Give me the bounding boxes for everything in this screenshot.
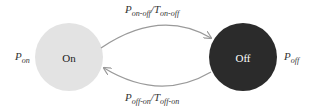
- p-off-sub: off: [291, 56, 299, 65]
- state-on-label: On: [62, 52, 75, 64]
- transition-off-on-arrow: [104, 68, 211, 86]
- p-on-main: P: [15, 50, 22, 62]
- p-off-label: Poff: [284, 50, 299, 65]
- transition-off-on-label: Poff-on/Toff-on: [125, 91, 179, 106]
- p-on-label: Pon: [15, 50, 30, 65]
- state-off-label: Off: [235, 52, 250, 64]
- transition-on-off-label: Pon-off/Ton-off: [125, 3, 179, 18]
- p-on-sub: on: [22, 56, 30, 65]
- p-on-off-main: P: [125, 3, 132, 15]
- p-on-off-sub: on-off: [132, 9, 151, 18]
- t-off-on-sub: off-on: [160, 97, 179, 106]
- transition-on-off-arrow: [101, 25, 211, 48]
- p-off-on-main: P: [125, 91, 132, 103]
- p-off-on-sub: off-on: [132, 97, 151, 106]
- t-on-off-sub: on-off: [160, 9, 179, 18]
- p-off-main: P: [284, 50, 291, 62]
